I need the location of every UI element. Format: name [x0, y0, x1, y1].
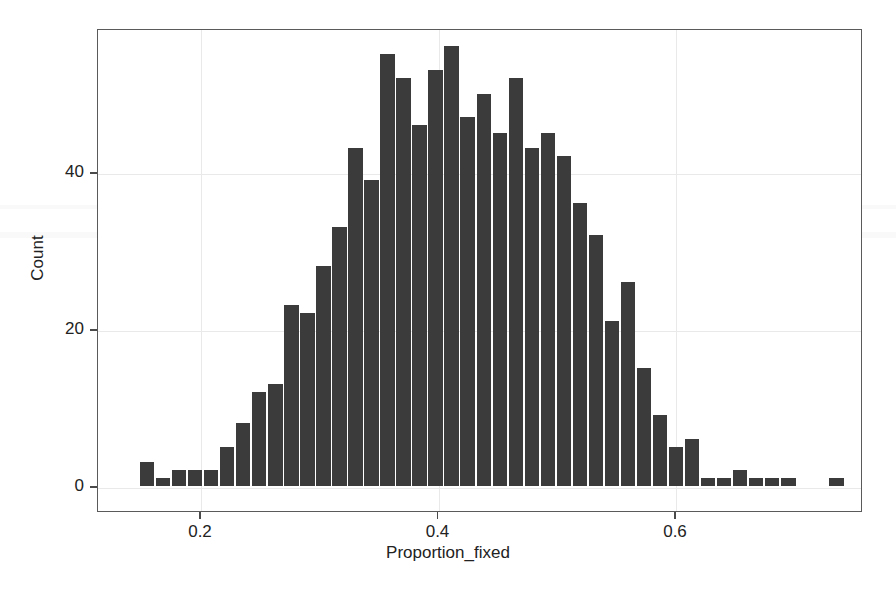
histogram-bar: [749, 478, 763, 486]
y-tick-label: 20: [65, 319, 84, 339]
x-axis-title: Proportion_fixed: [0, 543, 896, 563]
histogram-bar: [412, 125, 426, 486]
x-tick-label: 0.6: [635, 522, 715, 542]
histogram-bar: [268, 384, 282, 486]
histogram-bar: [300, 313, 314, 486]
x-tick-mark: [437, 512, 438, 519]
histogram-bar: [172, 470, 186, 486]
histogram-bar: [493, 133, 507, 486]
histogram-bar: [701, 478, 715, 486]
histogram-bar: [140, 462, 154, 486]
histogram-bar: [589, 235, 603, 486]
x-tick-label: 0.2: [160, 522, 240, 542]
histogram-bar: [717, 478, 731, 486]
histogram-bar: [364, 180, 378, 486]
x-tick-mark: [199, 512, 200, 519]
histogram-bar: [460, 117, 474, 486]
histogram-bar: [236, 423, 250, 486]
histogram-bar: [781, 478, 795, 486]
y-axis-title: Count: [28, 198, 48, 318]
y-tick-mark: [90, 329, 97, 330]
histogram-bar: [621, 282, 635, 486]
y-tick-mark: [90, 486, 97, 487]
histogram-bar: [444, 46, 458, 486]
histogram-bar: [733, 470, 747, 486]
histogram-bar: [316, 266, 330, 486]
histogram-bar: [765, 478, 779, 486]
histogram-bar: [188, 470, 202, 486]
histogram-bar: [525, 148, 539, 486]
histogram-bar: [573, 203, 587, 486]
plot-area: [97, 29, 862, 512]
histogram-bar: [396, 78, 410, 486]
histogram-bar: [669, 447, 683, 486]
histogram-bar: [204, 470, 218, 486]
histogram-bar: [637, 368, 651, 486]
histogram-bar: [477, 94, 491, 487]
histogram-bars: [98, 30, 861, 511]
histogram-bar: [332, 227, 346, 486]
histogram-bar: [284, 305, 298, 486]
histogram-bar: [605, 321, 619, 486]
histogram-bar: [509, 78, 523, 486]
histogram-bar: [348, 148, 362, 486]
histogram-bar: [380, 54, 394, 486]
x-tick-label: 0.4: [398, 522, 478, 542]
histogram-bar: [557, 156, 571, 486]
y-tick-mark: [90, 172, 97, 173]
histogram-bar: [428, 70, 442, 486]
histogram-bar: [252, 392, 266, 486]
histogram-bar: [541, 133, 555, 486]
histogram-bar: [653, 415, 667, 486]
histogram-figure: 02040 Count 0.20.40.6 Proportion_fixed: [0, 0, 896, 593]
histogram-bar: [156, 478, 170, 486]
y-tick-label: 40: [65, 162, 84, 182]
y-tick-label: 0: [75, 476, 84, 496]
histogram-bar: [220, 447, 234, 486]
histogram-bar: [685, 439, 699, 486]
x-tick-mark: [674, 512, 675, 519]
histogram-bar: [829, 478, 843, 486]
